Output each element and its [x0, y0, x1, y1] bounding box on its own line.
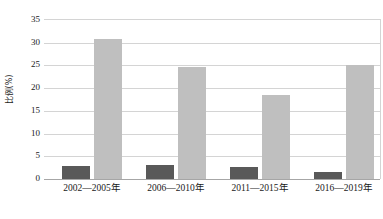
- x-axis-line: [44, 179, 380, 180]
- y-tick-label-15: 15: [16, 105, 40, 114]
- x-tick-label-0: 2002—2005年: [50, 181, 134, 195]
- bar-series-b-3: [346, 65, 374, 179]
- y-tick-label-25: 25: [16, 60, 40, 69]
- y-tick-label-5: 5: [16, 151, 40, 160]
- bar-series-a-1: [146, 165, 174, 179]
- bar-series-a-2: [230, 167, 258, 179]
- plot-area: [44, 19, 381, 179]
- y-tick-label-35: 35: [16, 15, 40, 24]
- y-tick-label-10: 10: [16, 128, 40, 137]
- bar-series-b-0: [94, 39, 122, 179]
- bar-series-a-0: [62, 166, 90, 179]
- y-tick-label-0: 0: [16, 174, 40, 183]
- bar-series-b-2: [262, 95, 290, 179]
- x-axis-tick-labels: 2002—2005年 2006—2010年 2011—2015年 2016—20…: [44, 181, 380, 201]
- bar-series-b-1: [178, 67, 206, 179]
- x-tick-label-3: 2016—2019年: [302, 181, 383, 195]
- bars-layer: [44, 20, 380, 179]
- y-tick-label-30: 30: [16, 37, 40, 46]
- bar-chart: 比例(%) 35 30 25 20 15 10 5 0 2002—2005年: [0, 0, 383, 219]
- y-axis-tick-labels: 35 30 25 20 15 10 5 0: [16, 0, 40, 190]
- y-tick-label-20: 20: [16, 83, 40, 92]
- bar-series-a-3: [314, 172, 342, 179]
- y-axis-title-label: 比例(%): [4, 74, 15, 104]
- x-tick-label-1: 2006—2010年: [134, 181, 218, 195]
- x-tick-label-2: 2011—2015年: [218, 181, 302, 195]
